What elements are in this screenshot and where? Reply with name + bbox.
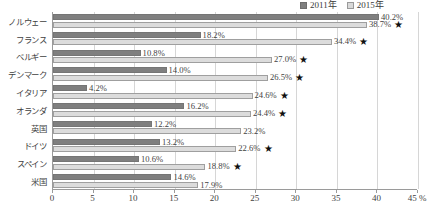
- x-tick-label: 40: [372, 194, 381, 203]
- bar-2015: [53, 93, 253, 99]
- bar-2011: [53, 103, 184, 109]
- bar-group: 16.2%24.4%★: [53, 101, 417, 119]
- bar-group: 14.6%17.9%: [53, 172, 417, 190]
- star-icon: ★: [280, 92, 289, 102]
- x-axis-ticks: 051015202530354045 %: [52, 190, 417, 210]
- bar-value-text-2015: 24.6%: [255, 90, 277, 100]
- bar-2015: [53, 22, 367, 28]
- gridline: [418, 12, 419, 189]
- bar-2015: [53, 39, 332, 45]
- category-label: 英国: [31, 119, 47, 137]
- category-label: 米国: [31, 172, 47, 190]
- star-icon: ★: [278, 109, 287, 119]
- bar-2015: [53, 146, 236, 152]
- x-tick-label: 15: [169, 194, 178, 203]
- category-label: スペイン: [17, 154, 47, 172]
- bar-value-label-2015: 18.8%★: [205, 162, 241, 173]
- bar-value-text-2015: 23.2%: [243, 126, 265, 136]
- legend-entry-2011: 2011年: [300, 1, 337, 10]
- x-tick-label: 45 %: [408, 194, 427, 203]
- bar-value-label-2011: 18.2%: [201, 31, 225, 40]
- legend-swatch-2011-icon: [300, 2, 307, 9]
- bar-rows: 40.2%38.7%★18.2%34.4%★10.8%27.0%★14.0%26…: [53, 12, 417, 189]
- bar-chart: 2011年 2015年 ノルウェーフランスベルギーデンマークイタリアオランダ英国…: [0, 0, 428, 211]
- bar-2015: [53, 128, 241, 134]
- bar-2011: [53, 121, 152, 127]
- x-tick-label: 30: [291, 194, 300, 203]
- bar-value-label-2015: 26.5%★: [268, 73, 304, 84]
- chart-legend: 2011年 2015年: [300, 1, 384, 10]
- star-icon: ★: [299, 56, 308, 66]
- legend-label-2015: 2015年: [357, 1, 384, 10]
- legend-entry-2015: 2015年: [347, 1, 384, 10]
- bar-value-text-2015: 27.0%: [274, 54, 296, 64]
- bar-2015: [53, 111, 251, 117]
- bar-value-label-2011: 14.6%: [171, 173, 195, 182]
- bar-value-label-2011: 4.2%: [87, 84, 107, 93]
- bar-value-text-2015: 34.4%: [334, 36, 356, 46]
- bar-value-text-2015: 18.8%: [207, 161, 229, 171]
- bar-2011: [53, 139, 160, 145]
- bar-group: 10.6%18.8%★: [53, 154, 417, 172]
- bar-2015: [53, 164, 205, 170]
- bar-2011: [53, 85, 87, 91]
- bar-value-label-2011: 14.0%: [167, 66, 191, 75]
- star-icon: ★: [394, 20, 403, 30]
- bar-value-label-2015: 22.6%★: [236, 144, 272, 155]
- category-label: オランダ: [16, 101, 47, 119]
- star-icon: ★: [233, 163, 242, 173]
- category-label: イタリア: [16, 83, 47, 101]
- bar-2011: [53, 50, 141, 56]
- bar-2015: [53, 75, 268, 81]
- bar-group: 18.2%34.4%★: [53, 30, 417, 48]
- bar-value-label-2011: 10.6%: [139, 155, 163, 164]
- bar-group: 14.0%26.5%★: [53, 65, 417, 83]
- bar-value-label-2015: 24.4%★: [251, 108, 287, 119]
- x-tick-label: 35: [331, 194, 340, 203]
- bar-value-label-2011: 12.2%: [152, 120, 176, 129]
- category-label: フランス: [16, 30, 47, 48]
- bar-value-label-2015: 24.6%★: [253, 91, 289, 102]
- star-icon: ★: [264, 145, 273, 155]
- bar-value-label-2011: 16.2%: [184, 102, 208, 111]
- category-label: ノルウェー: [8, 12, 47, 30]
- bar-group: 4.2%24.6%★: [53, 83, 417, 101]
- bar-group: 10.8%27.0%★: [53, 48, 417, 66]
- bar-2011: [53, 156, 139, 162]
- bar-2011: [53, 14, 379, 20]
- bar-group: 40.2%38.7%★: [53, 12, 417, 30]
- x-tick-label: 0: [50, 194, 55, 203]
- bar-value-text-2015: 22.6%: [238, 143, 260, 153]
- category-label: ベルギー: [16, 48, 47, 66]
- legend-label-2011: 2011年: [310, 1, 337, 10]
- plot-area: 40.2%38.7%★18.2%34.4%★10.8%27.0%★14.0%26…: [52, 12, 417, 190]
- star-icon: ★: [359, 38, 368, 48]
- y-axis-category-labels: ノルウェーフランスベルギーデンマークイタリアオランダ英国ドイツスペイン米国: [0, 12, 50, 190]
- bar-2011: [53, 32, 201, 38]
- bar-value-text-2015: 24.4%: [253, 107, 275, 117]
- x-tick-label: 10: [129, 194, 138, 203]
- star-icon: ★: [295, 74, 304, 84]
- legend-swatch-2015-icon: [347, 2, 354, 9]
- bar-value-label-2015: 27.0%★: [272, 55, 308, 66]
- bar-value-label-2011: 13.2%: [160, 137, 184, 146]
- x-tick-label: 20: [210, 194, 219, 203]
- bar-value-label-2015: 23.2%: [241, 127, 265, 136]
- x-tick-label: 5: [90, 194, 95, 203]
- bar-group: 12.2%23.2%: [53, 119, 417, 137]
- bar-2011: [53, 174, 171, 180]
- bar-value-label-2015: 34.4%★: [332, 37, 368, 48]
- bar-value-label-2015: 17.9%: [198, 181, 222, 190]
- bar-value-text-2015: 38.7%: [369, 18, 391, 28]
- bar-2011: [53, 67, 167, 73]
- bar-2015: [53, 182, 198, 188]
- category-label: デンマーク: [8, 65, 47, 83]
- bar-value-text-2015: 26.5%: [270, 72, 292, 82]
- bar-value-label-2015: 38.7%★: [367, 19, 403, 30]
- x-tick-label: 25: [250, 194, 259, 203]
- bar-2015: [53, 57, 272, 63]
- category-label: ドイツ: [24, 137, 47, 155]
- bar-group: 13.2%22.6%★: [53, 137, 417, 155]
- bar-value-text-2015: 17.9%: [200, 180, 222, 190]
- bar-value-label-2011: 10.8%: [141, 48, 165, 57]
